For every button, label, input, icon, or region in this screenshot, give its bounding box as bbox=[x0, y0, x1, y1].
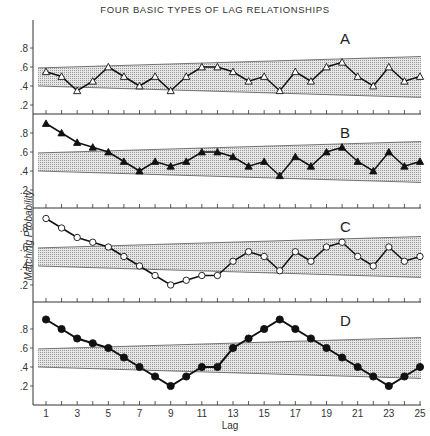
x-tick-label: 15 bbox=[259, 408, 271, 419]
data-point-marker bbox=[214, 363, 221, 370]
data-point-marker bbox=[401, 373, 408, 380]
x-tick-label: 5 bbox=[106, 408, 112, 419]
data-point-marker bbox=[276, 316, 283, 323]
data-point-marker bbox=[43, 215, 49, 221]
data-point-marker bbox=[152, 272, 158, 278]
y-tick-label: .4 bbox=[20, 362, 29, 373]
data-point-marker bbox=[74, 234, 80, 240]
data-point-marker bbox=[339, 239, 345, 245]
data-point-marker bbox=[120, 354, 127, 361]
y-tick-label: .8 bbox=[20, 128, 29, 139]
panel-c: .2.4.6.8C bbox=[20, 208, 424, 302]
data-point-marker bbox=[261, 325, 268, 332]
panel-d: .2.4.6.8D bbox=[20, 302, 424, 405]
data-point-marker bbox=[136, 363, 143, 370]
data-point-marker bbox=[354, 363, 361, 370]
data-point-marker bbox=[229, 344, 236, 351]
data-point-marker bbox=[74, 335, 81, 342]
data-point-marker bbox=[198, 363, 205, 370]
data-point-marker bbox=[214, 272, 220, 278]
x-tick-label: 7 bbox=[137, 408, 143, 419]
data-point-marker bbox=[416, 363, 423, 370]
y-tick-label: .4 bbox=[20, 166, 29, 177]
data-point-marker bbox=[89, 340, 96, 347]
data-point-marker bbox=[307, 335, 314, 342]
data-point-marker bbox=[167, 382, 174, 389]
y-tick-label: .2 bbox=[20, 100, 29, 111]
data-point-marker bbox=[136, 263, 142, 269]
x-tick-label: 17 bbox=[290, 408, 302, 419]
panel-label: B bbox=[340, 124, 350, 141]
data-point-marker bbox=[338, 354, 345, 361]
data-point-marker bbox=[42, 316, 49, 323]
data-point-marker bbox=[167, 282, 173, 288]
panel-label: A bbox=[340, 30, 350, 47]
data-point-marker bbox=[105, 244, 111, 250]
x-tick-label: 21 bbox=[352, 408, 364, 419]
data-point-marker bbox=[370, 373, 377, 380]
y-axis-label: Matching Probability bbox=[23, 186, 34, 286]
x-tick-label: 13 bbox=[227, 408, 239, 419]
data-point-marker bbox=[370, 263, 376, 269]
data-point-marker bbox=[151, 373, 158, 380]
data-point-marker bbox=[121, 253, 127, 259]
data-point-marker bbox=[308, 258, 314, 264]
data-point-marker bbox=[105, 344, 112, 351]
data-point-marker bbox=[245, 335, 252, 342]
x-tick-label: 11 bbox=[197, 408, 208, 419]
y-tick-label: .2 bbox=[20, 381, 29, 392]
data-point-marker bbox=[245, 249, 251, 255]
panel-a: .2.4.6.8A bbox=[20, 20, 424, 114]
data-point-marker bbox=[183, 373, 190, 380]
data-point-marker bbox=[199, 272, 205, 278]
data-point-marker bbox=[42, 120, 49, 126]
panel-label: C bbox=[340, 218, 351, 235]
data-point-marker bbox=[386, 244, 392, 250]
x-tick-label: 23 bbox=[383, 408, 395, 419]
y-tick-label: .4 bbox=[20, 81, 29, 92]
data-point-marker bbox=[354, 253, 360, 259]
data-point-marker bbox=[183, 277, 189, 283]
data-point-marker bbox=[58, 225, 64, 231]
data-point-marker bbox=[230, 258, 236, 264]
x-tick-label: 25 bbox=[414, 408, 426, 419]
data-point-marker bbox=[385, 382, 392, 389]
data-point-marker bbox=[74, 139, 81, 145]
y-tick-label: .6 bbox=[20, 147, 29, 158]
panel-b: .2.4.6.8B bbox=[20, 114, 424, 208]
data-point-marker bbox=[417, 253, 423, 259]
data-point-marker bbox=[323, 344, 330, 351]
x-tick-labels: 135791113151719212325 bbox=[43, 408, 426, 419]
lag-relationship-chart: .2.4.6.8A.2.4.6.8B.2.4.6.8C.2.4.6.8D1357… bbox=[0, 0, 430, 436]
x-tick-label: 9 bbox=[168, 408, 174, 419]
data-point-marker bbox=[292, 249, 298, 255]
x-tick-label: 1 bbox=[43, 408, 49, 419]
data-point-marker bbox=[261, 253, 267, 259]
data-point-marker bbox=[90, 239, 96, 245]
data-point-marker bbox=[58, 325, 65, 332]
data-point-marker bbox=[292, 325, 299, 332]
x-axis-label: Lag bbox=[0, 420, 430, 431]
panel-label: D bbox=[340, 312, 351, 329]
x-tick-label: 19 bbox=[321, 408, 333, 419]
data-point-marker bbox=[401, 258, 407, 264]
data-point-marker bbox=[323, 244, 329, 250]
y-tick-label: .6 bbox=[20, 343, 29, 354]
y-tick-label: .8 bbox=[20, 43, 29, 54]
y-tick-label: .6 bbox=[20, 62, 29, 73]
chance-band bbox=[38, 57, 421, 98]
data-point-marker bbox=[58, 129, 65, 135]
data-point-marker bbox=[277, 268, 283, 274]
x-tick-label: 3 bbox=[74, 408, 80, 419]
y-tick-label: .8 bbox=[20, 324, 29, 335]
